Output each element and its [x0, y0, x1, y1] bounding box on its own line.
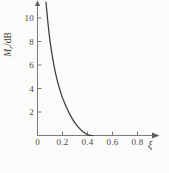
y-axis-title-symbol: M: [3, 49, 13, 57]
y-axis-title-unit: /dB: [3, 32, 13, 46]
y-tick-label: 10: [12, 13, 34, 23]
resonant-peak-curve: [46, 2, 93, 135]
x-tick-label: 0.4: [82, 137, 94, 147]
figure-container: Mr/dB ξ 0 0.2 0.4 0.6 0.8 2 4 6 8 10: [0, 0, 169, 173]
y-tick-label: 2: [16, 107, 34, 117]
y-tick-label: 6: [16, 60, 34, 70]
y-axis-ticks: [38, 18, 42, 112]
x-axis-title: ξ: [148, 139, 152, 150]
y-axis-arrow-icon: [35, 1, 40, 7]
x-tick-label: 0.6: [107, 137, 119, 147]
x-tick-label: 0.8: [132, 137, 144, 147]
x-tick-label: 0: [35, 137, 40, 147]
x-tick-label: 0.2: [57, 137, 69, 147]
y-axis-title: Mr/dB: [3, 22, 16, 66]
x-axis-arrow-icon: [152, 133, 160, 139]
y-tick-label: 4: [16, 84, 34, 94]
y-tick-label: 8: [16, 37, 34, 47]
